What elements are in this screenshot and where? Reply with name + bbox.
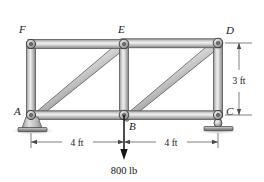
- joint-pin-A: [26, 110, 35, 119]
- joint-label-E: E: [117, 23, 125, 35]
- dimension-label-height: 3 ft: [233, 76, 246, 86]
- member-FE: [28, 40, 126, 49]
- joint-label-A: A: [13, 105, 21, 117]
- member-BC: [121, 111, 221, 120]
- dimension-label-span-left: 4 ft: [71, 138, 84, 148]
- member-DC: [214, 41, 223, 117]
- member-ED: [121, 39, 221, 48]
- truss-diagram-canvas: F E D A B C 800 lb 4 ft: [0, 0, 264, 182]
- truss-diagram-figure: F E D A B C 800 lb 4 ft: [0, 0, 264, 182]
- member-AE: [29, 41, 128, 122]
- dimension-span-left: 4 ft: [31, 138, 124, 148]
- joint-pin-D: [213, 38, 223, 48]
- member-EB: [120, 42, 129, 117]
- member-AB: [28, 111, 126, 120]
- dimension-span-right: 4 ft: [124, 138, 218, 148]
- joint-pin-C: [213, 110, 222, 119]
- member-FA: [27, 42, 36, 117]
- joint-label-B: B: [129, 120, 136, 132]
- joint-pin-F: [26, 39, 35, 48]
- joint-pin-E: [119, 39, 129, 49]
- joint-label-D: D: [225, 24, 234, 36]
- load-label: 800 lb: [111, 165, 138, 176]
- truss-members: [27, 39, 223, 122]
- joint-label-F: F: [18, 23, 26, 35]
- dimension-label-span-right: 4 ft: [165, 138, 178, 148]
- roller-support-C: [198, 119, 238, 134]
- member-BD: [122, 40, 222, 122]
